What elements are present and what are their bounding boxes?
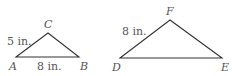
vertex-a-label: A (8, 60, 17, 73)
triangle-def: F D E 8 in. (111, 5, 229, 74)
side-ab-length: 8 in. (37, 60, 62, 73)
vertex-c-label: C (44, 18, 53, 31)
triangle-abc: C A B 5 in. 8 in. (7, 18, 88, 73)
vertex-f-label: F (165, 5, 174, 18)
vertex-b-label: B (79, 60, 88, 73)
vertex-d-label: D (111, 61, 121, 74)
side-ac-length: 5 in. (7, 35, 32, 48)
vertex-e-label: E (220, 61, 229, 74)
similar-triangles-diagram: C A B 5 in. 8 in. F D E 8 in. (0, 0, 237, 76)
side-df-length: 8 in. (122, 25, 147, 38)
